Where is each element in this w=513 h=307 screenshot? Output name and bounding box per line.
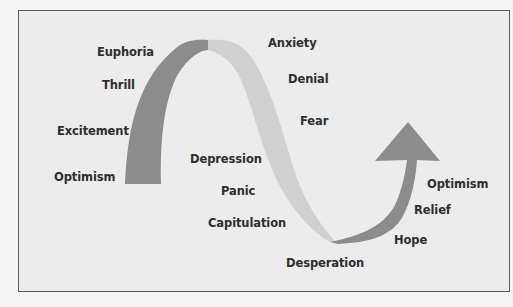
stage-label-thrill: Thrill: [102, 78, 135, 92]
stage-label-optimism-start: Optimism: [54, 170, 115, 184]
stage-label-relief: Relief: [414, 203, 451, 217]
stage-label-capitulation: Capitulation: [208, 216, 286, 230]
stage-label-optimism-end: Optimism: [427, 177, 488, 191]
stage-label-anxiety: Anxiety: [268, 36, 317, 50]
stage-label-desperation: Desperation: [286, 256, 364, 270]
stage-label-fear: Fear: [300, 114, 328, 128]
falling-band: [208, 40, 338, 244]
stage-label-hope: Hope: [394, 233, 427, 247]
recovery-arrow: [330, 122, 440, 244]
stage-label-depression: Depression: [190, 152, 262, 166]
stage-label-panic: Panic: [221, 184, 255, 198]
stage-label-denial: Denial: [288, 72, 329, 86]
stage-label-euphoria: Euphoria: [97, 45, 154, 59]
stage-label-excitement: Excitement: [57, 124, 129, 138]
